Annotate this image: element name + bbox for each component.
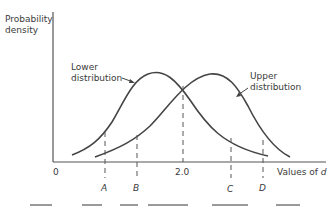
- lower-distribution-curve: [72, 72, 268, 156]
- marker-label-b: B: [133, 183, 139, 193]
- upper-distribution-label-line1: Upper: [250, 71, 278, 81]
- x-tick-0: 0: [53, 167, 59, 177]
- marker-label-d: D: [259, 183, 266, 193]
- lower-arrow-head-icon: [129, 79, 135, 83]
- y-axis-label-line1: Probability: [5, 14, 53, 24]
- lower-distribution-label-line2: distribution: [71, 73, 122, 83]
- marker-label-a: A: [100, 183, 107, 193]
- x-axis-label: Values of d: [277, 167, 327, 177]
- truncated-caption: [30, 204, 300, 206]
- upper-distribution-label-line2: distribution: [250, 82, 301, 92]
- y-axis-label-line2: density: [5, 25, 39, 35]
- chart-canvas: Probability density 0 2.0 Values of d A …: [0, 0, 334, 208]
- x-tick-2-0: 2.0: [175, 167, 190, 177]
- lower-distribution-label-line1: Lower: [71, 62, 98, 72]
- marker-label-c: C: [227, 184, 234, 194]
